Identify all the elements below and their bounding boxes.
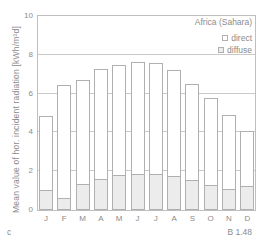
x-tick-label-6: J (130, 214, 146, 224)
legend-item-direct: direct (195, 32, 252, 44)
bar-12-diffuse-segment (241, 186, 253, 209)
x-tick-label-12: D (239, 214, 255, 224)
bar-11-diffuse-segment (223, 189, 235, 209)
bar-9-diffuse-segment (186, 180, 198, 209)
bar-8-A (167, 70, 181, 210)
bar-4-diffuse-segment (95, 179, 107, 209)
bar-10-O (204, 98, 218, 210)
bar-3-diffuse-segment (77, 184, 89, 209)
bar-12-D (240, 131, 254, 210)
bar-11-N (222, 115, 236, 210)
x-tick-label-3: M (75, 214, 91, 224)
y-tick-label-10: 10 (13, 11, 33, 21)
bar-1-diffuse-segment (40, 190, 52, 209)
bar-5-M (112, 65, 126, 211)
x-tick-label-9: S (184, 214, 200, 224)
panel-letter-label: c (7, 227, 11, 237)
x-tick-label-8: A (166, 214, 182, 224)
figure-panel: Mean value of hor. incident radiation [k… (0, 0, 261, 246)
bar-3-M (76, 80, 90, 210)
y-tick-label-2: 2 (13, 166, 33, 176)
bar-9-S (185, 84, 199, 210)
legend-item-diffuse: diffuse (195, 44, 252, 56)
y-tick-label-6: 6 (13, 89, 33, 99)
bar-7-J (149, 63, 163, 210)
x-tick-label-2: F (56, 214, 72, 224)
y-tick-label-4: 4 (13, 127, 33, 137)
legend-swatch-icon-diffuse (218, 47, 224, 53)
x-tick-label-10: O (203, 214, 219, 224)
bar-1-J (39, 116, 53, 210)
bar-6-J (131, 62, 145, 210)
legend-swatch-icon-direct (222, 35, 228, 41)
bar-2-diffuse-segment (58, 198, 70, 209)
legend-title: Africa (Sahara) (195, 17, 252, 28)
x-tick-label-7: J (148, 214, 164, 224)
bar-7-diffuse-segment (150, 174, 162, 209)
bar-4-A (94, 69, 108, 210)
bar-6-diffuse-segment (132, 174, 144, 209)
x-tick-label-5: M (111, 214, 127, 224)
figure-reference-label: B 1.48 (227, 227, 252, 237)
x-tick-label-1: J (38, 214, 54, 224)
y-tick-label-0: 0 (13, 205, 33, 215)
legend: Africa (Sahara) directdiffuse (195, 17, 252, 56)
bar-5-diffuse-segment (113, 175, 125, 209)
legend-label-diffuse: diffuse (227, 44, 252, 56)
y-tick-label-8: 8 (13, 50, 33, 60)
x-tick-label-11: N (221, 214, 237, 224)
x-tick-label-4: A (93, 214, 109, 224)
legend-label-direct: direct (231, 32, 252, 44)
bar-10-diffuse-segment (205, 185, 217, 209)
bar-2-F (57, 85, 71, 210)
bar-8-diffuse-segment (168, 176, 180, 209)
